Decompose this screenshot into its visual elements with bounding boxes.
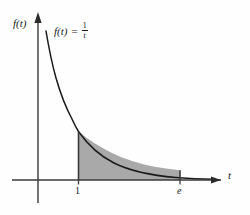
figure-container: f(t) t 1 e f(t) = 1 t: [0, 0, 250, 215]
x-tick-label-one: 1: [75, 186, 80, 196]
equation-equals-sign: =: [71, 26, 77, 37]
y-axis-arrowhead: [34, 12, 41, 23]
curve-equation-label: f(t) = 1 t: [54, 22, 88, 41]
x-axis-label: t: [228, 170, 231, 181]
shaded-area-under-curve: [79, 132, 181, 181]
function-plot: [0, 0, 250, 215]
fraction-denominator: t: [83, 32, 87, 40]
x-tick-label-e: e: [177, 186, 181, 196]
x-axis-arrowhead: [211, 176, 221, 183]
equation-left-side: f(t): [54, 26, 67, 37]
y-axis-label: f(t): [13, 18, 26, 29]
curve-one-over-t: [46, 31, 214, 179]
equation-fraction: 1 t: [82, 22, 88, 41]
fraction-numerator: 1: [82, 22, 88, 30]
